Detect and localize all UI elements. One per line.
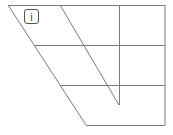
vowel-symbol-i[interactable]: i <box>24 9 39 24</box>
left-diagonal-edge <box>8 5 86 125</box>
central-diagonal-line <box>60 5 119 105</box>
